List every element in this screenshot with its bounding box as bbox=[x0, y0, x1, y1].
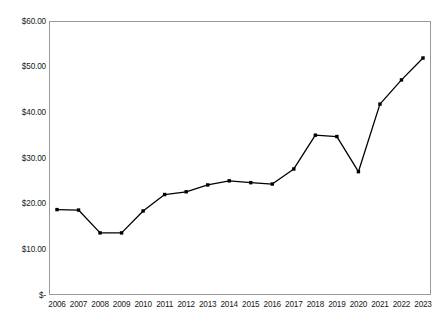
data-point-marker bbox=[77, 208, 80, 211]
data-point-marker bbox=[206, 183, 209, 186]
data-point-marker bbox=[400, 78, 403, 81]
data-point-marker bbox=[184, 190, 187, 193]
data-point-marker bbox=[55, 208, 58, 211]
line-chart: $-$10.00$20.00$30.00$40.00$50.00$60.00 2… bbox=[0, 0, 447, 324]
data-point-marker bbox=[163, 193, 166, 196]
y-axis-tick-label: $40.00 bbox=[0, 108, 46, 117]
series-line bbox=[57, 58, 423, 233]
y-axis-tick-label: $10.00 bbox=[0, 245, 46, 254]
x-axis: 2006200720082009201020112012201320142015… bbox=[49, 299, 431, 313]
y-axis-tick-label: $60.00 bbox=[0, 17, 46, 26]
data-point-marker bbox=[271, 182, 274, 185]
y-axis-tick-label: $30.00 bbox=[0, 154, 46, 163]
y-axis: $-$10.00$20.00$30.00$40.00$50.00$60.00 bbox=[0, 0, 46, 324]
x-axis-tick-label: 2023 bbox=[406, 299, 440, 310]
data-point-marker bbox=[228, 179, 231, 182]
data-point-marker bbox=[120, 231, 123, 234]
data-point-marker bbox=[141, 209, 144, 212]
data-point-marker bbox=[421, 56, 424, 59]
data-point-marker bbox=[357, 170, 360, 173]
y-axis-tick-label: $20.00 bbox=[0, 199, 46, 208]
data-point-marker bbox=[249, 181, 252, 184]
data-point-marker bbox=[378, 102, 381, 105]
y-axis-tick-label: $50.00 bbox=[0, 62, 46, 71]
data-point-marker bbox=[335, 135, 338, 138]
data-point-marker bbox=[292, 167, 295, 170]
data-point-marker bbox=[314, 133, 317, 136]
series-markers bbox=[55, 56, 424, 234]
plot-series-layer bbox=[49, 21, 431, 295]
data-point-marker bbox=[98, 231, 101, 234]
